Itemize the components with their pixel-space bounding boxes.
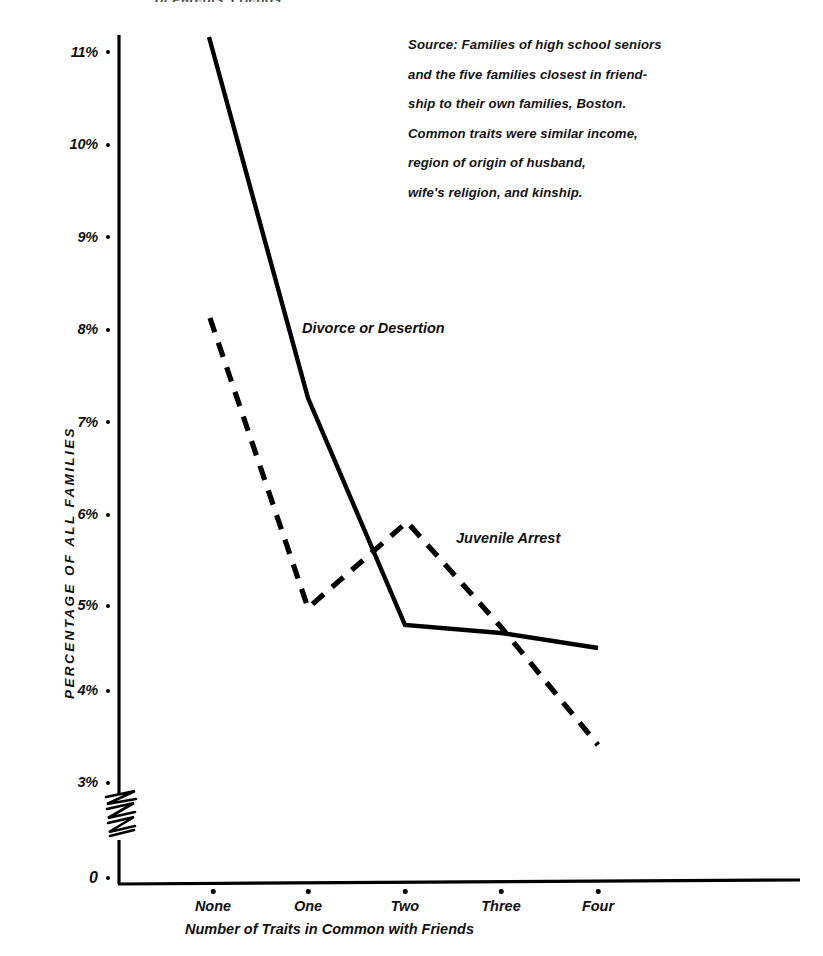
axis-break-icon: [106, 791, 136, 836]
plot-area: [0, 0, 823, 956]
series-line-juvenile: [210, 318, 598, 745]
chart-figure: of Parents' Friends Source: Families of …: [0, 0, 823, 956]
series-line-divorce: [209, 37, 598, 648]
x-axis-spine: [118, 880, 800, 884]
